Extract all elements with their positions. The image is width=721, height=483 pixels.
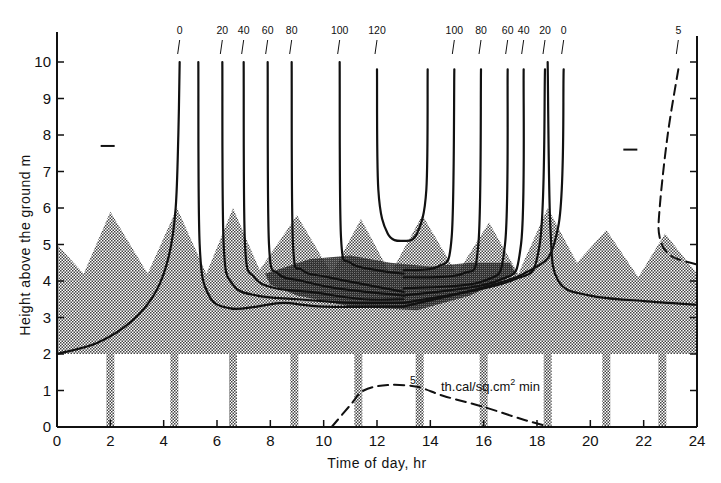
curve-top-label: 80: [475, 24, 487, 36]
y-tick-label: 8: [43, 126, 51, 143]
curve-top-labels: 0204060801001201008060402005: [177, 24, 682, 54]
y-tick-label: 4: [43, 272, 51, 289]
y-tick-label: 1: [43, 382, 51, 399]
x-tick-label: 0: [53, 432, 61, 449]
y-tick-label: 10: [34, 53, 51, 70]
x-tick-label: 22: [635, 432, 652, 449]
curve-top-label: 40: [238, 24, 250, 36]
stipple-bar: [354, 354, 362, 427]
x-tick-label: 2: [106, 432, 114, 449]
x-tick-label: 18: [529, 432, 546, 449]
curve-top-label: 100: [446, 24, 464, 36]
y-tick-label: 9: [43, 90, 51, 107]
curve-top-label: 5: [675, 24, 681, 36]
stipple-bar: [658, 354, 666, 427]
y-tick-label: 5: [43, 236, 51, 253]
x-tick-label: 16: [475, 432, 492, 449]
x-tick-label: 4: [159, 432, 167, 449]
curve-top-label: 60: [502, 24, 514, 36]
stipple-bar: [290, 354, 298, 427]
curve-top-label: 60: [262, 24, 274, 36]
curve-120: [377, 69, 428, 241]
curve-top-label: 100: [331, 24, 349, 36]
stippled-layer: [57, 208, 697, 427]
curve-top-label: 40: [518, 24, 530, 36]
stipple-bar: [170, 354, 178, 427]
x-tick-label: 20: [582, 432, 599, 449]
stipple-bar: [229, 354, 237, 427]
stipple-bar: [544, 354, 552, 427]
y-tick-label: 3: [43, 309, 51, 326]
curve-top-label: 20: [539, 24, 551, 36]
x-tick-label: 14: [422, 432, 439, 449]
y-tick-label: 6: [43, 199, 51, 216]
y-tick-label: 0: [43, 418, 51, 435]
x-tick-label: 6: [213, 432, 221, 449]
chart-canvas: 012345678910024681012141618202224 020406…: [0, 0, 721, 483]
curve-top-label: 0: [177, 24, 183, 36]
curve-top-label: 0: [561, 24, 567, 36]
x-tick-label: 24: [689, 432, 706, 449]
curve-top-label: 120: [368, 24, 386, 36]
stipple-bar: [416, 354, 424, 427]
x-axis-title: Time of day, hr: [327, 455, 426, 471]
x-tick-label: 8: [266, 432, 274, 449]
stipple-bar: [106, 354, 114, 427]
curve-top-label: 80: [286, 24, 298, 36]
radiation-iso-label: 5: [410, 374, 416, 386]
x-tick-label: 12: [369, 432, 386, 449]
curve-top-label: 20: [216, 24, 228, 36]
y-tick-label: 2: [43, 345, 51, 362]
y-tick-label: 7: [43, 163, 51, 180]
radiation-unit-label: th.cal/sq.cm2 min: [441, 377, 540, 394]
x-tick-label: 10: [315, 432, 332, 449]
y-axis-title: Height above the ground m: [17, 154, 33, 335]
stipple-bar: [602, 354, 610, 427]
